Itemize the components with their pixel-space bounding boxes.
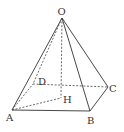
pyramid-figure: O A B C D H bbox=[0, 0, 124, 132]
label-C: C bbox=[109, 83, 117, 94]
solid-edges bbox=[12, 18, 108, 111]
edge-OC bbox=[62, 18, 108, 87]
edge-OA bbox=[12, 18, 62, 110]
pyramid-diagram: O A B C D H bbox=[0, 0, 124, 132]
label-A: A bbox=[5, 112, 14, 123]
label-O: O bbox=[58, 6, 66, 17]
edge-AD bbox=[12, 84, 33, 110]
edge-BC bbox=[90, 87, 108, 111]
label-D: D bbox=[38, 76, 46, 87]
label-H: H bbox=[63, 94, 72, 105]
edge-OD bbox=[33, 18, 62, 84]
label-B: B bbox=[87, 115, 94, 126]
edge-AB bbox=[12, 110, 90, 111]
dashed-edges bbox=[12, 18, 108, 110]
edge-OH bbox=[61, 18, 62, 98]
edge-AH bbox=[12, 98, 61, 110]
